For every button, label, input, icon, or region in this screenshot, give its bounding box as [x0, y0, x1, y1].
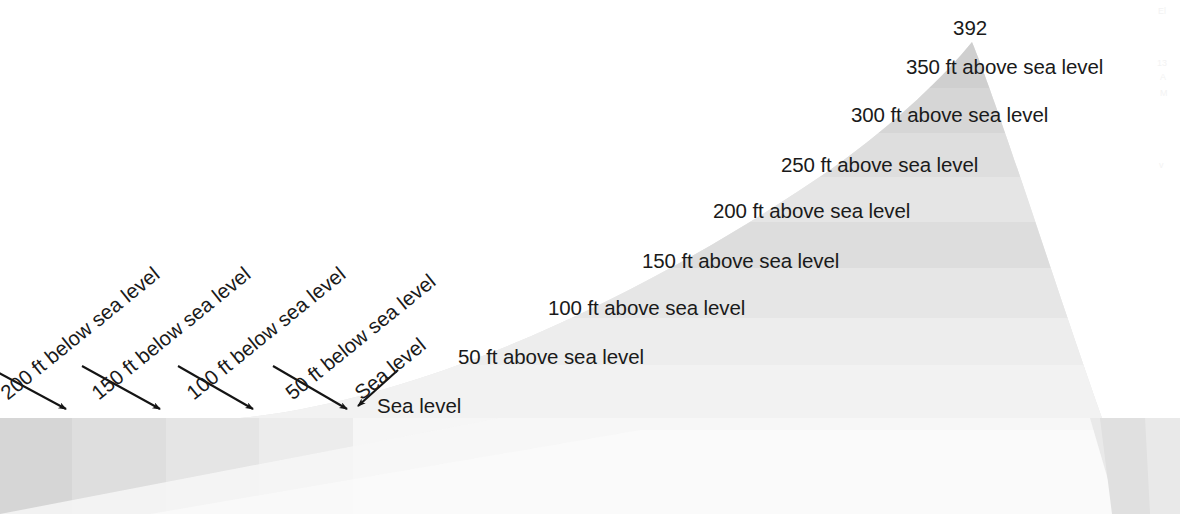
band-0-50 — [0, 365, 1180, 420]
arrow-150-below — [82, 366, 160, 409]
band-200-250 — [0, 177, 1180, 222]
arrow-200-below — [0, 366, 66, 409]
depth-step-200 — [0, 418, 72, 514]
band-250-300 — [0, 133, 1180, 177]
arrow-100-below — [178, 366, 253, 409]
elevation-cross-section-svg — [0, 0, 1180, 514]
arrow-50-below — [273, 366, 347, 409]
band-300-350 — [0, 88, 1180, 133]
band-350-392 — [0, 0, 1180, 88]
underwater-terrain — [0, 418, 1180, 514]
band-100-150 — [0, 268, 1180, 318]
band-50-100 — [0, 318, 1180, 365]
band-150-200 — [0, 222, 1180, 268]
diagram-canvas: 392 350 ft above sea level 300 ft above … — [0, 0, 1180, 514]
